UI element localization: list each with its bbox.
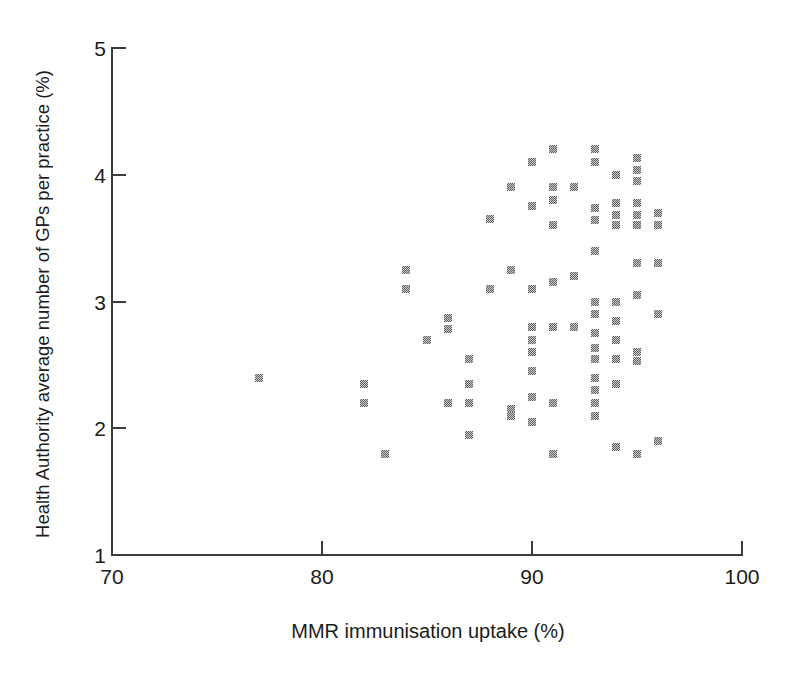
data-point: [423, 336, 431, 344]
data-point: [612, 298, 620, 306]
data-point: [444, 314, 452, 322]
data-point: [465, 380, 473, 388]
data-point: [528, 393, 536, 401]
y-tick-label: 2: [60, 418, 106, 439]
data-point: [570, 183, 578, 191]
data-point: [591, 204, 599, 212]
data-point: [528, 348, 536, 356]
data-point: [570, 323, 578, 331]
data-point: [528, 158, 536, 166]
data-point: [633, 211, 641, 219]
data-point: [633, 166, 641, 174]
data-point: [612, 211, 620, 219]
data-point: [591, 158, 599, 166]
data-point: [528, 285, 536, 293]
data-point: [612, 199, 620, 207]
x-axis-title: MMR immunisation uptake (%): [112, 620, 744, 643]
data-point: [528, 323, 536, 331]
data-point: [444, 399, 452, 407]
data-point: [528, 202, 536, 210]
y-tick-label: 4: [60, 164, 106, 185]
x-axis-line: [111, 554, 743, 556]
data-point: [654, 221, 662, 229]
x-tick-mark: [741, 541, 743, 554]
data-point: [549, 278, 557, 286]
data-point: [549, 450, 557, 458]
data-point: [465, 355, 473, 363]
data-point: [633, 348, 641, 356]
x-tick-label: 80: [292, 566, 352, 587]
data-point: [549, 183, 557, 191]
data-point: [612, 443, 620, 451]
data-point: [591, 298, 599, 306]
x-tick-mark: [531, 541, 533, 554]
x-tick-mark: [321, 541, 323, 554]
data-point: [507, 412, 515, 420]
y-tick-label: 3: [60, 291, 106, 312]
data-point: [255, 374, 263, 382]
data-point: [612, 355, 620, 363]
y-axis-title: Health Authority average number of GPs p…: [32, 49, 54, 559]
x-tick-label: 90: [502, 566, 562, 587]
data-point: [591, 310, 599, 318]
data-point: [591, 344, 599, 352]
data-point: [591, 247, 599, 255]
y-tick-label: 1: [60, 545, 106, 566]
data-point: [549, 221, 557, 229]
data-point: [633, 450, 641, 458]
data-point: [654, 310, 662, 318]
data-point: [507, 183, 515, 191]
data-point: [402, 266, 410, 274]
data-point: [360, 399, 368, 407]
data-point: [633, 154, 641, 162]
data-point: [570, 272, 578, 280]
data-point: [381, 450, 389, 458]
data-point: [633, 199, 641, 207]
data-point: [465, 431, 473, 439]
data-point: [528, 367, 536, 375]
data-point: [612, 221, 620, 229]
data-point: [591, 399, 599, 407]
scatter-plot-figure: 12345 708090100 Health Authority average…: [0, 0, 795, 677]
x-tick-label: 70: [82, 566, 142, 587]
y-tick-mark: [113, 174, 126, 176]
y-tick-label: 5: [60, 38, 106, 59]
data-point: [612, 336, 620, 344]
data-point: [591, 412, 599, 420]
data-point: [549, 145, 557, 153]
y-tick-mark: [113, 554, 126, 556]
data-point: [612, 171, 620, 179]
data-point: [465, 399, 473, 407]
data-point: [591, 145, 599, 153]
y-tick-mark: [113, 301, 126, 303]
y-tick-mark: [113, 427, 126, 429]
data-point: [549, 196, 557, 204]
data-point: [444, 325, 452, 333]
x-tick-mark: [111, 541, 113, 554]
data-point: [591, 386, 599, 394]
data-point: [633, 291, 641, 299]
data-point: [633, 221, 641, 229]
data-point: [360, 380, 368, 388]
x-tick-label: 100: [712, 566, 772, 587]
data-point: [528, 418, 536, 426]
data-point: [612, 317, 620, 325]
data-point: [507, 266, 515, 274]
data-point: [633, 259, 641, 267]
data-point: [612, 380, 620, 388]
data-point: [591, 374, 599, 382]
data-point: [654, 209, 662, 217]
data-point: [591, 329, 599, 337]
data-point: [549, 399, 557, 407]
data-point: [486, 215, 494, 223]
data-point: [633, 357, 641, 365]
data-point: [654, 259, 662, 267]
data-point: [549, 323, 557, 331]
data-point: [486, 285, 494, 293]
data-point: [654, 437, 662, 445]
data-point: [633, 177, 641, 185]
data-point: [591, 216, 599, 224]
data-point: [591, 355, 599, 363]
data-point: [528, 336, 536, 344]
data-point: [402, 285, 410, 293]
